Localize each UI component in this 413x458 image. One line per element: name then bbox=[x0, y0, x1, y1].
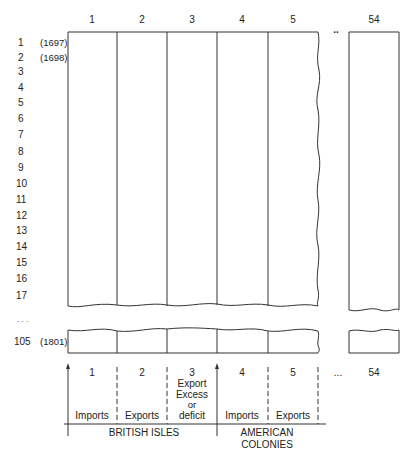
column-header-3: 3 bbox=[189, 14, 195, 25]
row-label: 10 bbox=[16, 178, 27, 189]
column-header-2: 2 bbox=[139, 14, 145, 25]
column-header-1: 1 bbox=[89, 14, 95, 25]
row-label: 1 bbox=[18, 37, 24, 48]
legend-label-line: Export bbox=[178, 378, 207, 389]
row-label: 12 bbox=[16, 210, 27, 221]
legend-number-2: 2 bbox=[139, 367, 145, 378]
row-label: 2 bbox=[18, 52, 24, 63]
row-label: 11 bbox=[16, 194, 26, 205]
group-american-colonies-line2: COLONIES bbox=[241, 439, 293, 450]
row-year: (1698) bbox=[40, 52, 67, 63]
row-label: 14 bbox=[16, 241, 27, 252]
legend-label-line: or bbox=[188, 399, 196, 410]
column-header-54: 54 bbox=[368, 14, 379, 25]
row-label: 17 bbox=[16, 290, 27, 301]
legend-number-54: 54 bbox=[368, 367, 379, 378]
row-label: 13 bbox=[16, 225, 27, 236]
legend-label-imports-british: Imports bbox=[75, 410, 108, 421]
legend-label-exports-british: Exports bbox=[125, 410, 159, 421]
legend-number-3: 3 bbox=[189, 367, 195, 378]
column-header-4: 4 bbox=[239, 14, 245, 25]
group-american-colonies-line1: AMERICAN bbox=[241, 427, 294, 438]
row-year-last: (1801) bbox=[40, 336, 67, 347]
row-label: 5 bbox=[18, 97, 24, 108]
row-label: 16 bbox=[16, 273, 27, 284]
group-british-isles: BRITISH ISLES bbox=[109, 427, 180, 438]
legend-label-line: deficit bbox=[179, 410, 205, 421]
column-header-5: 5 bbox=[290, 14, 296, 25]
row-year: (1697) bbox=[40, 37, 67, 48]
legend-number-4: 4 bbox=[239, 367, 245, 378]
row-label: 9 bbox=[18, 162, 24, 173]
row-label: 6 bbox=[18, 113, 24, 124]
row-label: 4 bbox=[18, 82, 24, 93]
row-label: 15 bbox=[16, 257, 27, 268]
column-ellipsis: .. bbox=[333, 24, 339, 35]
row-ellipsis: . . . bbox=[17, 314, 28, 325]
legend-label-exports-american: Exports bbox=[276, 410, 310, 421]
legend-label-imports-american: Imports bbox=[225, 410, 258, 421]
row-label: 7 bbox=[18, 129, 24, 140]
row-label-last: 105 bbox=[14, 336, 31, 347]
row-label: 8 bbox=[18, 146, 24, 157]
row-label: 3 bbox=[18, 66, 24, 77]
legend-number-1: 1 bbox=[89, 367, 95, 378]
legend-number-5: 5 bbox=[290, 367, 296, 378]
legend-ellipsis: ... bbox=[334, 367, 342, 378]
